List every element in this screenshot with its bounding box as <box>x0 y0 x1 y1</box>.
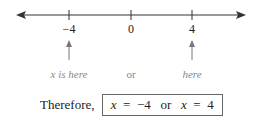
annotation-left: x is here <box>34 68 104 80</box>
tick-label-neg4: −4 <box>49 22 89 37</box>
var-x: x <box>181 97 187 112</box>
conclusion: Therefore, x = −4 or x = 4 <box>40 94 223 116</box>
value-4: 4 <box>207 97 214 112</box>
value-neg4: −4 <box>137 97 151 112</box>
tick-label-0: 0 <box>111 22 151 37</box>
var-x: x <box>111 97 117 112</box>
equals: = <box>123 97 130 112</box>
or-text: or <box>160 97 171 112</box>
up-arrow-icon <box>66 40 72 47</box>
answer-box: x = −4 or x = 4 <box>102 94 223 116</box>
annotation-or: or <box>96 68 166 80</box>
equals: = <box>193 97 200 112</box>
tick-label-4: 4 <box>172 22 212 37</box>
up-arrow-icon <box>189 40 195 47</box>
conclusion-prefix: Therefore, <box>40 97 95 112</box>
annotation-right: here <box>157 68 227 80</box>
